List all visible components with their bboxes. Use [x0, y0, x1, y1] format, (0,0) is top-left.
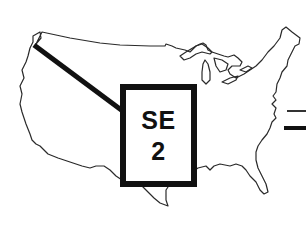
- lake-erie: [222, 76, 238, 84]
- legend-thin-line: [287, 110, 306, 112]
- lake-michigan: [202, 60, 210, 84]
- lake-ontario: [240, 66, 252, 72]
- callout-box: SE 2: [120, 84, 197, 187]
- callout-label-line1: SE: [141, 105, 175, 136]
- legend-thick-line: [284, 126, 306, 130]
- lake-huron: [214, 58, 228, 72]
- callout-leader-line: [34, 45, 124, 112]
- callout-label-line2: 2: [151, 136, 165, 167]
